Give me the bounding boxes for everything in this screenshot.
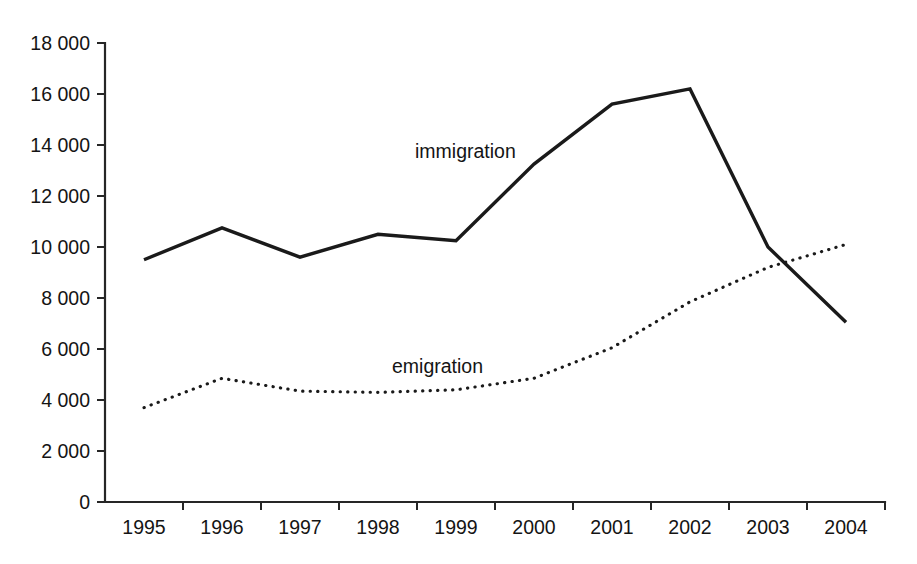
y-tick-label: 14 000 — [30, 134, 90, 156]
series-line-emigration — [144, 244, 846, 407]
y-tick-label: 2 000 — [41, 440, 90, 462]
data-series-group — [144, 89, 846, 408]
x-axis-tick-labels: 1995199619971998199920002001200220032004 — [122, 516, 868, 538]
series-annotation-emigration: emigration — [392, 355, 483, 377]
x-tick-label: 1999 — [434, 516, 477, 538]
x-tick-label: 2002 — [668, 516, 711, 538]
x-tick-label: 2004 — [824, 516, 868, 538]
x-tick-label: 2000 — [512, 516, 556, 538]
y-tick-label: 18 000 — [30, 32, 90, 54]
y-tick-label: 0 — [79, 491, 90, 513]
x-tick-label: 1997 — [278, 516, 321, 538]
chart-figure: 02 0004 0006 0008 00010 00012 00014 0001… — [0, 0, 917, 564]
y-tick-label: 4 000 — [41, 389, 90, 411]
y-tick-label: 10 000 — [30, 236, 90, 258]
y-tick-label: 16 000 — [30, 83, 90, 105]
axis-lines — [105, 43, 885, 502]
series-line-immigration — [144, 89, 846, 322]
axes-group — [97, 43, 885, 510]
x-tick-label: 2003 — [746, 516, 789, 538]
y-axis-tick-marks — [97, 43, 105, 502]
x-tick-label: 1995 — [122, 516, 166, 538]
x-tick-label: 2001 — [590, 516, 633, 538]
y-tick-label: 8 000 — [41, 287, 90, 309]
x-tick-label: 1996 — [200, 516, 243, 538]
series-annotation-immigration: immigration — [415, 140, 516, 162]
series-annotations: immigrationemigration — [392, 140, 516, 377]
x-axis-tick-marks — [183, 502, 885, 510]
y-tick-label: 6 000 — [41, 338, 90, 360]
y-tick-label: 12 000 — [30, 185, 90, 207]
x-tick-label: 1998 — [356, 516, 399, 538]
line-chart-canvas: 02 0004 0006 0008 00010 00012 00014 0001… — [0, 0, 917, 564]
y-axis-tick-labels: 02 0004 0006 0008 00010 00012 00014 0001… — [30, 32, 90, 513]
